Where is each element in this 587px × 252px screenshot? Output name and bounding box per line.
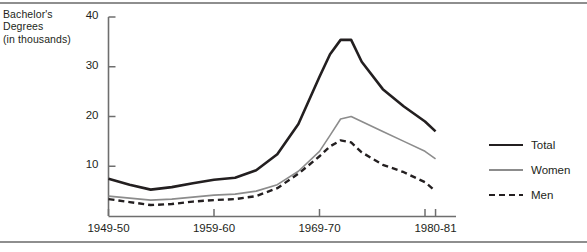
figure: Bachelor's Degrees (in thousands) 102030… xyxy=(0,0,587,252)
axes xyxy=(109,17,457,217)
x-axis-tick-label: 1980-81 xyxy=(396,222,476,234)
data-series-group xyxy=(109,40,436,205)
legend-swatch-total-icon xyxy=(489,139,523,151)
plot-area xyxy=(0,0,587,252)
legend-item-women[interactable]: Women xyxy=(489,157,584,182)
x-axis-tick-label: 1949-50 xyxy=(69,222,149,234)
legend-swatch-women-icon xyxy=(489,164,523,176)
x-axis-tick-label: 1959-60 xyxy=(174,222,254,234)
y-axis-tick-label: 10 xyxy=(73,158,99,170)
y-axis-tick-label: 30 xyxy=(73,59,99,71)
legend-item-men[interactable]: Men xyxy=(489,182,584,207)
legend-label-men: Men xyxy=(531,189,553,201)
y-axis-ticks xyxy=(109,17,116,166)
x-axis-tick-label: 1969-70 xyxy=(280,222,360,234)
x-axis-ticks xyxy=(109,209,436,216)
legend-label-women: Women xyxy=(531,164,570,176)
legend-label-total: Total xyxy=(531,139,555,151)
chart-svg xyxy=(0,0,587,252)
legend-swatch-men-icon xyxy=(489,189,523,201)
legend-item-total[interactable]: Total xyxy=(489,132,584,157)
y-axis-tick-label: 40 xyxy=(73,9,99,21)
legend: Total Women Men xyxy=(489,132,584,207)
y-axis-tick-label: 20 xyxy=(73,109,99,121)
series-line-men xyxy=(109,140,436,205)
